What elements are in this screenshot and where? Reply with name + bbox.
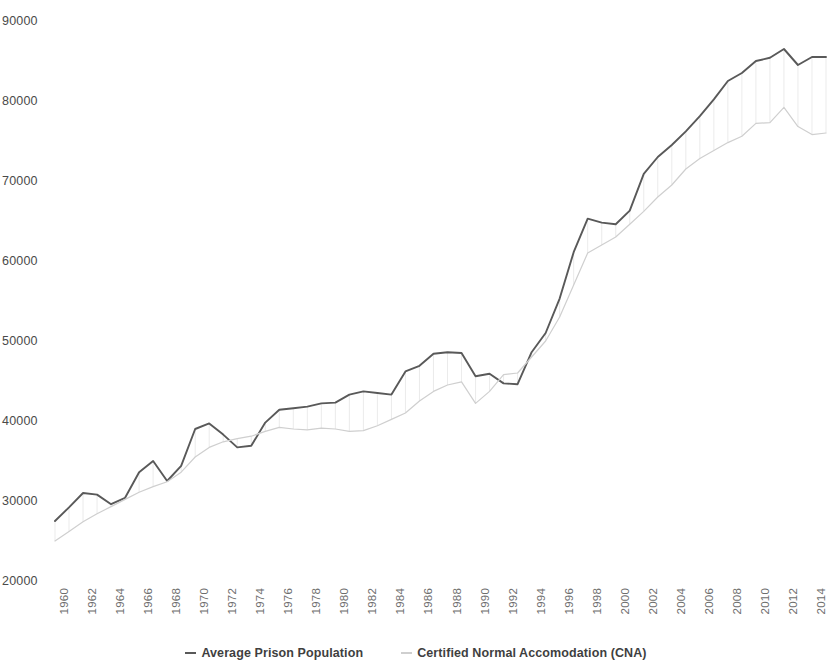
x-tick-label: 1960 bbox=[59, 588, 71, 614]
x-tick-label: 2000 bbox=[620, 588, 632, 614]
x-tick-label: 2002 bbox=[648, 588, 660, 614]
x-tick-label: 1964 bbox=[115, 588, 127, 614]
legend-item-certified-normal-accomodation: Certified Normal Accomodation (CNA) bbox=[401, 646, 646, 660]
x-tick-label: 1980 bbox=[339, 588, 351, 614]
x-tick-label: 1986 bbox=[423, 588, 435, 614]
x-tick-label: 1976 bbox=[283, 588, 295, 614]
x-tick-label: 1994 bbox=[536, 588, 548, 614]
x-tick-label: 1974 bbox=[255, 588, 267, 614]
x-tick-label: 1968 bbox=[171, 588, 183, 614]
x-tick-label: 2004 bbox=[676, 588, 688, 614]
x-tick-label: 1978 bbox=[311, 588, 323, 614]
legend-item-average-prison-population: Average Prison Population bbox=[185, 646, 363, 660]
x-tick-label: 1988 bbox=[452, 588, 464, 614]
x-tick-label: 2014 bbox=[816, 588, 828, 614]
y-tick-label: 70000 bbox=[2, 175, 50, 188]
x-tick-label: 2012 bbox=[788, 588, 800, 614]
x-tick-label: 1962 bbox=[87, 588, 99, 614]
x-tick-label: 2010 bbox=[760, 588, 772, 614]
legend-label: Average Prison Population bbox=[201, 646, 363, 660]
x-tick-label: 1966 bbox=[143, 588, 155, 614]
x-tick-label: 1984 bbox=[395, 588, 407, 614]
x-tick-label: 1998 bbox=[592, 588, 604, 614]
x-tick-label: 1990 bbox=[480, 588, 492, 614]
legend-label: Certified Normal Accomodation (CNA) bbox=[417, 646, 646, 660]
x-tick-label: 1970 bbox=[199, 588, 211, 614]
y-tick-label: 90000 bbox=[2, 15, 50, 28]
y-tick-label: 20000 bbox=[2, 575, 50, 588]
x-tick-label: 1972 bbox=[227, 588, 239, 614]
x-tick-label: 1982 bbox=[367, 588, 379, 614]
series-lines bbox=[55, 49, 826, 541]
y-tick-label: 30000 bbox=[2, 495, 50, 508]
prison-population-chart: 2000030000400005000060000700008000090000… bbox=[0, 0, 832, 669]
legend-swatch-light-icon bbox=[401, 652, 412, 654]
x-tick-label: 2006 bbox=[704, 588, 716, 614]
x-tick-label: 1996 bbox=[564, 588, 576, 614]
x-tick-label: 2008 bbox=[732, 588, 744, 614]
legend-swatch-dark-icon bbox=[185, 652, 196, 654]
y-tick-label: 60000 bbox=[2, 255, 50, 268]
x-tick-label: 1992 bbox=[508, 588, 520, 614]
plot-area bbox=[0, 0, 832, 669]
y-tick-label: 40000 bbox=[2, 415, 50, 428]
chart-legend: Average Prison Population Certified Norm… bbox=[0, 646, 832, 660]
series-line-average-prison-population bbox=[55, 49, 826, 521]
between-series-hatching bbox=[55, 49, 826, 541]
series-line-certified-normal-accomodation bbox=[55, 107, 826, 541]
y-tick-label: 80000 bbox=[2, 95, 50, 108]
y-tick-label: 50000 bbox=[2, 335, 50, 348]
